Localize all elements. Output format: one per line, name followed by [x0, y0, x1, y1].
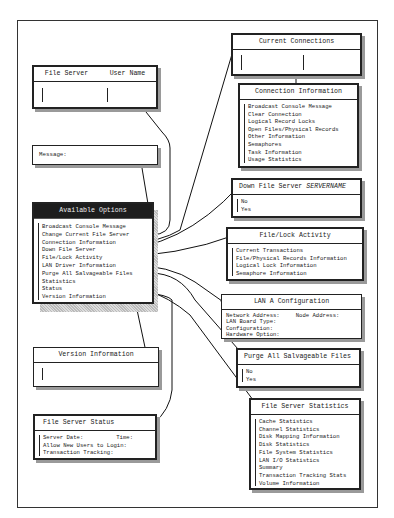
node-address-label: Node Address: — [296, 313, 340, 319]
statistics-item[interactable]: Summary — [259, 464, 355, 472]
statistics-item[interactable]: File System Statistics — [259, 449, 355, 457]
purge-options: No Yes — [238, 365, 359, 386]
file-lock-item[interactable]: File/Physical Records Information — [236, 255, 358, 263]
statistics-item[interactable]: Channel Statistics — [259, 426, 355, 434]
purge-salvageable-files-box: Purge All Salvageable Files No Yes — [236, 348, 361, 388]
allow-new-users-label: Allow New Users to Login: — [43, 442, 151, 450]
file-server-status-box: File Server Status Server Date: Time: Al… — [33, 414, 157, 460]
connection-column-1[interactable] — [241, 55, 242, 70]
file-server-status-body: Server Date: Time: Allow New Users to Lo… — [35, 431, 155, 460]
file-lock-activity-title: File/Lock Activity — [228, 229, 362, 244]
statistics-item[interactable]: Disk Mapping Information — [259, 433, 355, 441]
connection-item[interactable]: Clear Connection — [248, 111, 353, 119]
available-options-list: Broadcast Console Message Change Current… — [34, 219, 152, 304]
file-server-column-label: File Server — [45, 67, 89, 81]
file-lock-activity-box: File/Lock Activity Current Transactions … — [226, 227, 364, 281]
option-yes[interactable]: Yes — [241, 206, 356, 214]
file-server-statistics-title: File Server Statistics — [251, 400, 359, 415]
file-server-statistics-list: Cache Statistics Channel Statistics Disk… — [251, 415, 359, 490]
connection-item[interactable]: Semaphores — [248, 141, 353, 149]
available-options-title: Available Options — [34, 204, 152, 219]
transaction-tracking-label: Transaction Tracking: — [43, 449, 151, 457]
down-file-server-box: Down File Server SERVERNAME No Yes — [231, 178, 362, 218]
option-status[interactable]: Status — [42, 285, 148, 293]
available-options-menu: Available Options Broadcast Console Mess… — [32, 202, 154, 304]
purge-salvageable-files-title: Purge All Salvageable Files — [238, 350, 359, 365]
connection-item[interactable]: Task Information — [248, 149, 353, 157]
login-box: File Server User Name — [32, 65, 158, 109]
login-header: File Server User Name — [34, 67, 156, 82]
version-text-cursor — [42, 368, 43, 380]
connection-information-box: Connection Information Broadcast Console… — [238, 83, 359, 168]
option-connection-information[interactable]: Connection Information — [42, 239, 148, 247]
file-lock-item[interactable]: Semaphore Information — [236, 270, 358, 278]
connection-item[interactable]: Open Files/Physical Records — [248, 126, 353, 134]
connection-item[interactable]: Logical Record Locks — [248, 118, 353, 126]
option-no[interactable]: No — [241, 198, 356, 206]
statistics-item[interactable]: Transaction Tracking Stats — [259, 472, 355, 480]
connection-item[interactable]: Usage Statistics — [248, 156, 353, 164]
connection-item[interactable]: Broadcast Console Message — [248, 103, 353, 111]
connection-information-title: Connection Information — [240, 85, 357, 100]
version-information-title: Version Information — [34, 348, 158, 363]
option-no[interactable]: No — [246, 368, 355, 376]
file-lock-item[interactable]: Logical Lock Information — [236, 262, 358, 270]
option-purge-salvageable-files[interactable]: Purge All Salvageable Files — [42, 270, 148, 278]
user-name-field[interactable] — [107, 88, 108, 102]
statistics-item[interactable]: Volume Information — [259, 480, 355, 488]
file-server-status-title: File Server Status — [35, 416, 155, 431]
lan-a-configuration-body: Network Address: Node Address: LAN Board… — [222, 310, 361, 342]
servername-variable: SERVERNAME — [306, 183, 346, 190]
down-file-server-label: Down File Server — [239, 183, 302, 190]
hardware-option-label: Hardware Option: — [226, 332, 357, 338]
statistics-item[interactable]: Cache Statistics — [259, 418, 355, 426]
statistics-item[interactable]: LAN I/O Statistics — [259, 457, 355, 465]
server-date-label: Server Date: — [43, 434, 83, 442]
file-lock-item[interactable]: Current Transactions — [236, 247, 358, 255]
time-label: Time: — [116, 434, 133, 442]
file-server-field[interactable] — [42, 88, 43, 102]
lan-a-configuration-title: LAN A Configuration — [222, 295, 361, 310]
option-lan-driver-information[interactable]: LAN Driver Information — [42, 262, 148, 270]
lan-a-configuration-box: LAN A Configuration Network Address: Nod… — [221, 294, 362, 339]
down-file-server-options: No Yes — [233, 195, 360, 216]
option-yes[interactable]: Yes — [246, 376, 355, 384]
option-change-current-file-server[interactable]: Change Current File Server — [42, 231, 148, 239]
connection-column-2[interactable] — [303, 55, 304, 70]
option-broadcast-console-message[interactable]: Broadcast Console Message — [42, 223, 148, 231]
option-down-file-server[interactable]: Down File Server — [42, 246, 148, 254]
message-box: Message: — [32, 145, 158, 165]
user-name-column-label: User Name — [110, 67, 146, 81]
current-connections-title: Current Connections — [233, 35, 360, 50]
option-statistics[interactable]: Statistics — [42, 278, 148, 286]
option-version-information[interactable]: Version Information — [42, 293, 148, 301]
current-connections-box: Current Connections — [231, 33, 362, 76]
message-label: Message: — [33, 146, 157, 163]
statistics-item[interactable]: Disk Statistics — [259, 441, 355, 449]
option-file-lock-activity[interactable]: File/Lock Activity — [42, 254, 148, 262]
down-file-server-title: Down File Server SERVERNAME — [233, 180, 360, 195]
file-lock-activity-list: Current Transactions File/Physical Recor… — [228, 244, 362, 280]
version-information-box: Version Information — [33, 347, 159, 387]
connection-information-list: Broadcast Console Message Clear Connecti… — [240, 100, 357, 167]
file-server-statistics-box: File Server Statistics Cache Statistics … — [249, 398, 361, 490]
connection-item[interactable]: Other Information — [248, 133, 353, 141]
